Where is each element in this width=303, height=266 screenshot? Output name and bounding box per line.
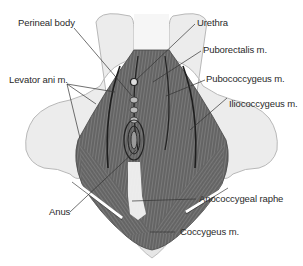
label-coccygeus: Coccygeus m. — [180, 226, 239, 237]
label-anus: Anus — [49, 206, 70, 217]
pelvic-floor-diagram: Perineal body Urethra Puborectalis m. Le… — [0, 0, 303, 266]
label-puborectalis: Puborectalis m. — [203, 44, 267, 55]
label-urethra: Urethra — [197, 17, 228, 28]
label-levator-ani: Levator ani m. — [9, 74, 68, 85]
anus-opening — [131, 131, 137, 149]
pelvis-illustration — [0, 0, 303, 266]
label-perineal-body: Perineal body — [18, 17, 75, 28]
label-iliococcygeus: Iliococcygeus m. — [229, 98, 298, 109]
label-anococcygeal-raphe: Anococcygeal raphe — [199, 193, 283, 204]
label-pubococcygeus: Pubococcygeus m. — [206, 73, 285, 84]
